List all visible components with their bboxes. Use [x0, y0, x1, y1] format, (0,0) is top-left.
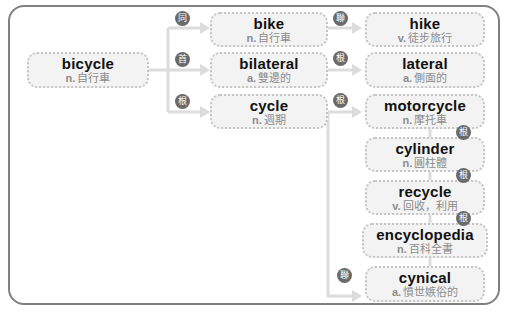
definition: n.自行車: [29, 72, 147, 85]
word-label: encyclopedia: [364, 227, 486, 243]
arrowhead-lateral: [352, 64, 362, 76]
arrowhead-cynical: [352, 290, 362, 302]
part-of-speech: a.: [392, 286, 401, 298]
meaning: 側面的: [414, 72, 447, 84]
arrowhead-cycle: [200, 106, 210, 118]
meaning: 徒步旅行: [408, 32, 452, 44]
word-label: bike: [212, 16, 326, 32]
arrowhead-bilateral: [200, 64, 210, 76]
word-label: recycle: [367, 184, 483, 200]
relation-badge-root: 根: [456, 211, 471, 226]
arrowhead-motorcycle: [352, 106, 362, 118]
node-bicycle[interactable]: bicycle n.自行車: [27, 52, 149, 88]
word-label: hike: [367, 16, 483, 32]
part-of-speech: n.: [403, 157, 413, 169]
node-bilateral[interactable]: bilateral a.雙邊的: [210, 52, 328, 88]
part-of-speech: n.: [247, 32, 257, 44]
definition: n.週期: [212, 114, 326, 127]
relation-badge-root: 根: [333, 51, 348, 66]
relation-badge-root: 根: [175, 94, 190, 109]
node-bike[interactable]: bike n.自行車: [210, 12, 328, 47]
node-encyclopedia[interactable]: encyclopedia n.百科全書: [362, 223, 488, 258]
definition: a.憤世嫉俗的: [367, 286, 483, 299]
arrowhead-bike: [200, 22, 210, 34]
node-motorcycle[interactable]: motorcycle n.摩托車: [365, 94, 485, 129]
relation-badge-root: 根: [456, 168, 471, 183]
node-hike[interactable]: hike v.徒步旅行: [365, 12, 485, 47]
word-label: bilateral: [212, 56, 326, 72]
meaning: 百科全書: [409, 243, 453, 255]
meaning: 圓柱體: [414, 157, 447, 169]
part-of-speech: v.: [392, 200, 400, 212]
part-of-speech: n.: [397, 243, 407, 255]
node-cynical[interactable]: cynical a.憤世嫉俗的: [365, 266, 485, 302]
part-of-speech: v.: [398, 32, 406, 44]
meaning: 自行車: [77, 72, 110, 84]
relation-badge-prefix: 首: [175, 52, 190, 67]
part-of-speech: a.: [403, 72, 412, 84]
definition: a.側面的: [367, 72, 483, 85]
meaning: 週期: [264, 114, 286, 126]
relation-badge-synonym: 同: [175, 11, 190, 26]
word-label: cylinder: [367, 141, 483, 157]
word-label: cynical: [367, 270, 483, 286]
part-of-speech: n.: [403, 114, 413, 126]
definition: n.百科全書: [364, 243, 486, 256]
meaning: 雙邊的: [258, 72, 291, 84]
definition: a.雙邊的: [212, 72, 326, 85]
meaning: 回收，利用: [403, 200, 458, 212]
meaning: 憤世嫉俗的: [403, 286, 458, 298]
relation-badge-associated: 聯: [337, 268, 352, 283]
node-recycle[interactable]: recycle v.回收，利用: [365, 180, 485, 215]
node-cylinder[interactable]: cylinder n.圓柱體: [365, 137, 485, 172]
relation-badge-root: 根: [333, 93, 348, 108]
relation-badge-root: 根: [456, 125, 471, 140]
relation-badge-associated: 聯: [333, 11, 348, 26]
node-cycle[interactable]: cycle n.週期: [210, 94, 328, 129]
meaning: 摩托車: [414, 114, 447, 126]
meaning: 自行車: [258, 32, 291, 44]
definition: n.自行車: [212, 32, 326, 45]
part-of-speech: a.: [247, 72, 256, 84]
part-of-speech: n.: [252, 114, 262, 126]
definition: v.徒步旅行: [367, 32, 483, 45]
part-of-speech: n.: [66, 72, 76, 84]
word-label: bicycle: [29, 56, 147, 72]
word-label: motorcycle: [367, 98, 483, 114]
word-label: lateral: [367, 56, 483, 72]
word-label: cycle: [212, 98, 326, 114]
arrowhead-hike: [352, 22, 362, 34]
node-lateral[interactable]: lateral a.側面的: [365, 52, 485, 88]
